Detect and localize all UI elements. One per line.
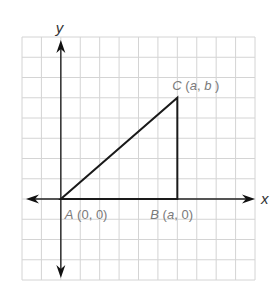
vertex-a-letter: A (64, 207, 74, 222)
vertex-c-var-b: b (204, 78, 211, 93)
vertex-label-c: C (a, b ) (172, 78, 219, 93)
vertex-label-b: B (a, 0) (150, 207, 193, 222)
vertex-label-a: A (0, 0) (64, 207, 108, 222)
vertex-c-sep: , (197, 78, 204, 93)
vertex-a-coords: (0, 0) (74, 207, 108, 222)
vertex-b-letter: B (150, 207, 159, 222)
vertex-b-paren-close: , 0) (174, 207, 193, 222)
y-axis-label: y (55, 19, 65, 36)
coordinate-plane: x y A (0, 0) B (a, 0) C (a, b ) (0, 0, 277, 295)
vertex-b-var-a: a (167, 207, 174, 222)
vertex-c-paren-close: ) (211, 78, 219, 93)
grid-lines (22, 37, 255, 280)
x-axis-label: x (260, 190, 269, 207)
coordinate-plane-figure: x y A (0, 0) B (a, 0) C (a, b ) (0, 0, 277, 295)
vertex-c-var-a: a (190, 78, 197, 93)
